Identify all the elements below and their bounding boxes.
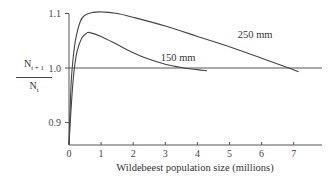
series-line-150-mm	[69, 32, 207, 144]
x-tick-label: 4	[195, 148, 200, 159]
x-tick-label: 1	[99, 148, 104, 159]
y-label-numerator: Nt + 1	[14, 58, 54, 74]
y-label-fraction-bar	[16, 77, 52, 78]
y-label-denominator: Nt	[14, 80, 54, 96]
x-tick-label: 0	[67, 148, 72, 159]
axes	[69, 14, 322, 145]
x-tick-label: 5	[227, 148, 232, 159]
y-tick-label: 0.9	[49, 117, 62, 128]
y-tick-label: 1.1	[49, 8, 62, 19]
series-label: 250 mm	[238, 29, 273, 40]
x-tick-label: 6	[259, 148, 264, 159]
series-labels: 250 mm150 mm	[161, 29, 273, 63]
series-label: 150 mm	[161, 52, 196, 63]
x-tick-label: 3	[163, 148, 168, 159]
x-tick-label: 2	[131, 148, 136, 159]
x-tick-label: 7	[291, 148, 296, 159]
y-axis-label: Nt + 1 Nt	[14, 58, 54, 96]
x-axis-title: Wildebeest population size (millions)	[116, 162, 274, 174]
